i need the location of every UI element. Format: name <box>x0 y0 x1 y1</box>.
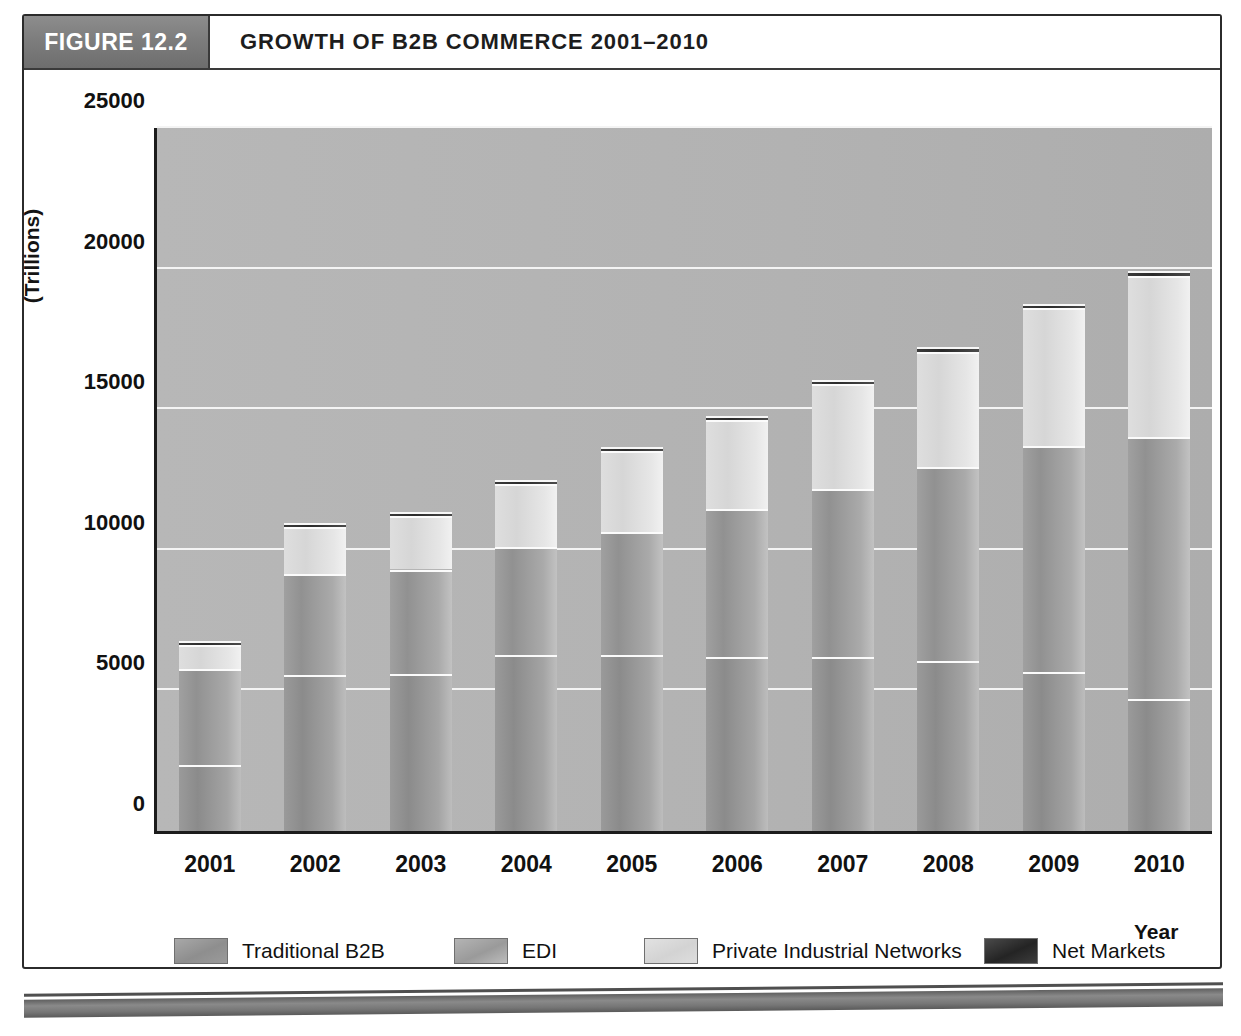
bar-segment[interactable] <box>917 352 979 467</box>
plot-panel: 0500010000150002000025000 20012002200320… <box>154 128 1212 834</box>
bar-group[interactable] <box>1023 304 1085 831</box>
bar-segment[interactable] <box>284 574 346 675</box>
bar-group[interactable] <box>706 416 768 831</box>
x-axis-tick-label: 2010 <box>1112 851 1206 878</box>
legend-swatch <box>644 938 698 964</box>
bar-segment[interactable] <box>601 447 663 451</box>
figure-header: FIGURE 12.2 GROWTH OF B2B COMMERCE 2001–… <box>24 16 1220 70</box>
y-axis-unit-label: (Trillions) <box>20 176 44 336</box>
legend-label: Net Markets <box>1052 939 1165 963</box>
bar-segment[interactable] <box>601 451 663 531</box>
y-axis-tick-label: 10000 <box>84 510 145 536</box>
figure-frame: FIGURE 12.2 GROWTH OF B2B COMMERCE 2001–… <box>22 14 1222 969</box>
bar-group[interactable] <box>495 480 557 832</box>
legend-swatch <box>984 938 1038 964</box>
y-axis-tick-label: 20000 <box>84 228 145 254</box>
x-axis-tick-label: 2007 <box>796 851 890 878</box>
bar-segment[interactable] <box>495 547 557 655</box>
chart-area: (Trillions) 0500010000150002000025000 20… <box>24 70 1220 967</box>
bar-segment[interactable] <box>1023 672 1085 831</box>
bar-segment[interactable] <box>1128 699 1190 831</box>
legend-label: EDI <box>522 939 557 963</box>
bar-segment[interactable] <box>706 416 768 420</box>
bar-segment[interactable] <box>812 657 874 831</box>
x-axis-tick-label: 2006 <box>690 851 784 878</box>
legend-swatch <box>454 938 508 964</box>
bar-segment[interactable] <box>1023 304 1085 308</box>
figure-number-badge: FIGURE 12.2 <box>24 16 210 68</box>
bar-group[interactable] <box>1128 271 1190 831</box>
legend-item[interactable]: Traditional B2B <box>174 938 385 964</box>
x-axis-tick-label: 2003 <box>374 851 468 878</box>
bar-group[interactable] <box>390 512 452 831</box>
legend-label: Private Industrial Networks <box>712 939 962 963</box>
bar-segment[interactable] <box>390 512 452 516</box>
bar-segment[interactable] <box>495 480 557 484</box>
bar-segment[interactable] <box>601 532 663 656</box>
bar-segment[interactable] <box>917 347 979 351</box>
y-axis-tick-label: 15000 <box>84 369 145 395</box>
bar-segment[interactable] <box>179 669 241 765</box>
figure-screenshot: FIGURE 12.2 GROWTH OF B2B COMMERCE 2001–… <box>0 0 1241 1036</box>
bar-segment[interactable] <box>917 661 979 831</box>
bar-segment[interactable] <box>284 675 346 831</box>
legend-item[interactable]: Net Markets <box>984 938 1165 964</box>
bar-segment[interactable] <box>390 516 452 569</box>
bar-segment[interactable] <box>284 523 346 527</box>
x-axis-tick-label: 2008 <box>901 851 995 878</box>
legend-label: Traditional B2B <box>242 939 385 963</box>
bar-group[interactable] <box>179 641 241 831</box>
bar-group[interactable] <box>917 347 979 831</box>
bar-segment[interactable] <box>706 420 768 509</box>
bar-segment[interactable] <box>179 641 241 645</box>
chart-legend: Traditional B2BEDIPrivate Industrial Net… <box>174 936 1184 966</box>
bar-segment[interactable] <box>1128 276 1190 438</box>
figure-title: GROWTH OF B2B COMMERCE 2001–2010 <box>210 16 1220 68</box>
bar-segment[interactable] <box>812 380 874 384</box>
bar-segment[interactable] <box>390 570 452 674</box>
bar-segment[interactable] <box>917 467 979 661</box>
x-axis-tick-label: 2009 <box>1007 851 1101 878</box>
bar-segment[interactable] <box>495 655 557 831</box>
bar-segment[interactable] <box>812 489 874 656</box>
bar-segment[interactable] <box>495 484 557 547</box>
bar-group[interactable] <box>284 523 346 831</box>
bar-segment[interactable] <box>812 384 874 489</box>
bar-series-container: 2001200220032004200520062007200820092010 <box>157 128 1212 831</box>
x-axis-tick-label: 2005 <box>585 851 679 878</box>
bar-segment[interactable] <box>706 657 768 831</box>
y-axis-tick-label: 25000 <box>84 88 145 114</box>
x-axis-tick-label: 2002 <box>268 851 362 878</box>
x-axis-tick-label: 2004 <box>479 851 573 878</box>
legend-swatch <box>174 938 228 964</box>
bar-segment[interactable] <box>390 674 452 831</box>
bar-segment[interactable] <box>179 645 241 669</box>
bar-segment[interactable] <box>601 655 663 831</box>
legend-item[interactable]: EDI <box>454 938 557 964</box>
bar-segment[interactable] <box>706 509 768 657</box>
bar-segment[interactable] <box>284 527 346 573</box>
legend-item[interactable]: Private Industrial Networks <box>644 938 962 964</box>
x-axis-tick-label: 2001 <box>163 851 257 878</box>
bar-segment[interactable] <box>1128 437 1190 699</box>
bar-segment[interactable] <box>1023 446 1085 672</box>
bar-segment[interactable] <box>1128 271 1190 275</box>
bar-segment[interactable] <box>179 765 241 831</box>
y-axis-tick-label: 0 <box>133 791 145 817</box>
bar-group[interactable] <box>601 447 663 831</box>
bar-segment[interactable] <box>1023 308 1085 446</box>
bar-group[interactable] <box>812 380 874 831</box>
y-axis-tick-label: 5000 <box>96 650 145 676</box>
